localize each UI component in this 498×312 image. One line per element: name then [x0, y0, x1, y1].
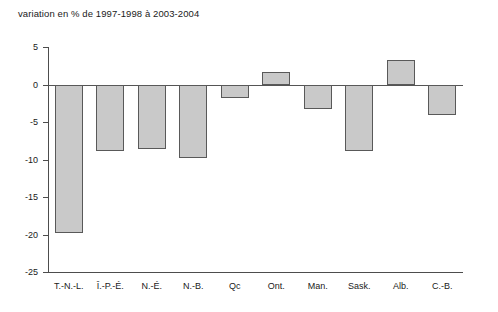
y-tick-mark — [43, 85, 49, 86]
y-tick-label: -5 — [0, 117, 38, 127]
y-tick-mark — [43, 235, 49, 236]
x-tick-label: Qc — [229, 281, 241, 291]
bar — [55, 85, 83, 234]
x-tick-label: Man. — [308, 281, 328, 291]
x-tick-label: Alb. — [393, 281, 409, 291]
y-tick-label: -20 — [0, 230, 38, 240]
bar — [345, 85, 373, 152]
x-tick-label: T.-N.-L. — [54, 281, 84, 291]
x-tick-label: C.-B. — [432, 281, 453, 291]
x-tick-label: Î.-P.-É. — [97, 281, 124, 291]
bar-chart-figure: variation en % de 1997-1998 à 2003-2004 … — [0, 0, 498, 312]
y-tick-label: -25 — [0, 267, 38, 277]
chart-title: variation en % de 1997-1998 à 2003-2004 — [18, 8, 199, 19]
bar — [262, 72, 290, 85]
bar — [96, 85, 124, 152]
y-tick-mark — [43, 47, 49, 48]
x-axis-line — [48, 272, 463, 273]
bar — [138, 85, 166, 150]
x-tick-label: N.-B. — [183, 281, 204, 291]
bar — [428, 85, 456, 116]
y-tick-mark — [43, 197, 49, 198]
bar — [179, 85, 207, 159]
x-tick-label: Sask. — [348, 281, 371, 291]
x-tick-label: Ont. — [268, 281, 285, 291]
x-tick-label: N.-É. — [141, 281, 162, 291]
y-tick-label: 0 — [0, 80, 38, 90]
y-tick-mark — [43, 272, 49, 273]
y-tick-mark — [43, 122, 49, 123]
bar — [387, 60, 415, 85]
bar — [221, 85, 249, 99]
y-tick-label: 5 — [0, 42, 38, 52]
bar — [304, 85, 332, 110]
y-tick-label: -15 — [0, 192, 38, 202]
y-tick-mark — [43, 160, 49, 161]
y-tick-label: -10 — [0, 155, 38, 165]
